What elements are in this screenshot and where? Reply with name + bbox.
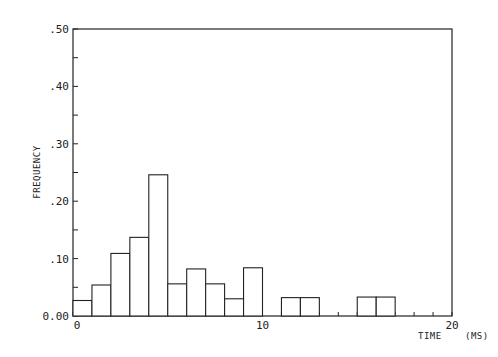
histogram-bar — [187, 269, 206, 316]
y-axis-title: FREQUENCY — [32, 145, 42, 198]
histogram-chart: 0.00.10.20.30.40.50 01020 FREQUENCY TIME… — [0, 0, 498, 357]
histogram-bar — [149, 175, 168, 316]
histogram-bars — [73, 175, 395, 316]
x-tick-label: 10 — [256, 319, 269, 332]
histogram-bar — [206, 284, 225, 316]
histogram-bar — [73, 301, 92, 316]
x-tick-label: 0 — [74, 319, 81, 332]
histogram-bar — [92, 285, 111, 316]
histogram-bar — [281, 298, 300, 316]
x-axis-unit: (MS) — [465, 331, 489, 341]
histogram-bar — [300, 298, 319, 316]
y-tick-label: .10 — [49, 253, 69, 266]
y-tick-label: .40 — [49, 80, 69, 93]
histogram-bar — [130, 237, 149, 316]
histogram-bar — [111, 253, 130, 316]
histogram-bar — [168, 284, 187, 316]
y-tick-label: 0.00 — [43, 310, 70, 323]
x-tick-label: 20 — [445, 319, 458, 332]
histogram-bar — [244, 268, 263, 316]
y-tick-label: .20 — [49, 195, 69, 208]
histogram-bar — [376, 297, 395, 316]
y-tick-label: .50 — [49, 23, 69, 36]
y-tick-label: .30 — [49, 138, 69, 151]
histogram-bar — [225, 299, 244, 316]
histogram-bar — [357, 297, 376, 316]
x-axis-title: TIME — [418, 331, 442, 341]
